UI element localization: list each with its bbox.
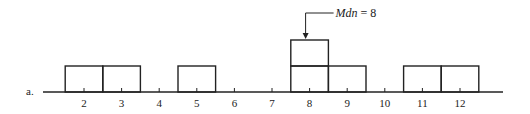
panel-label: a.: [26, 85, 34, 97]
median-annotation: Mdn = 8: [303, 6, 377, 39]
median-pointer-line: [306, 13, 334, 34]
x-tick-label: 9: [344, 97, 350, 109]
arrow-down-icon: [303, 33, 309, 39]
x-tick-label: 12: [455, 97, 466, 109]
x-tick-label: 4: [156, 97, 162, 109]
x-tick-label: 7: [269, 97, 275, 109]
x-tick-label: 6: [232, 97, 238, 109]
histogram-boxes: [65, 40, 479, 92]
median-label-var: Mdn: [335, 6, 358, 20]
x-tick-label: 10: [379, 97, 391, 109]
x-tick-label: 8: [307, 97, 313, 109]
median-label: Mdn = 8: [335, 6, 377, 20]
x-tick-label: 3: [119, 97, 125, 109]
median-label-value: = 8: [358, 6, 377, 20]
histogram-box: [291, 40, 329, 66]
x-tick-label: 11: [417, 97, 428, 109]
x-tick-label: 5: [194, 97, 200, 109]
x-axis-ticks: 23456789101112: [81, 88, 465, 109]
x-tick-label: 2: [81, 97, 87, 109]
median-histogram-chart: a. 23456789101112 Mdn = 8: [0, 0, 530, 114]
